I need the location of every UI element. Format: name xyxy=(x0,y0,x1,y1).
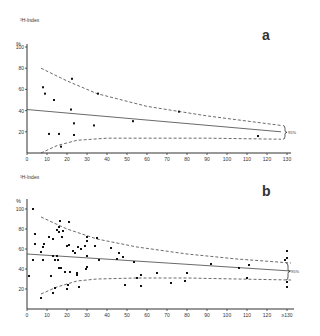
data-point xyxy=(98,259,100,261)
data-point xyxy=(136,277,138,279)
ci-label: 95% xyxy=(288,130,296,135)
x-tick-label: 10 xyxy=(44,312,50,318)
data-point xyxy=(76,272,78,274)
x-tick-label: ≥130 xyxy=(281,312,292,318)
data-point xyxy=(286,286,288,288)
x-tick-label: 50 xyxy=(124,156,130,162)
data-point xyxy=(118,252,120,254)
data-point xyxy=(85,268,87,270)
data-point xyxy=(61,236,63,238)
data-point xyxy=(52,238,54,240)
data-point xyxy=(66,288,68,290)
data-point xyxy=(32,208,34,210)
data-point xyxy=(60,146,62,148)
data-point xyxy=(71,78,73,80)
data-point xyxy=(68,221,70,223)
data-point xyxy=(78,286,80,288)
data-point xyxy=(132,120,134,122)
upper-confidence-band xyxy=(41,68,281,125)
data-point xyxy=(116,258,118,260)
data-point xyxy=(133,261,135,263)
data-point xyxy=(50,275,52,277)
y-tick-label: 100 xyxy=(16,206,25,212)
data-point xyxy=(32,259,34,261)
data-point xyxy=(96,237,98,239)
x-tick-label: 70 xyxy=(164,156,170,162)
data-point xyxy=(86,236,88,238)
data-point xyxy=(140,285,142,287)
data-point xyxy=(60,267,62,269)
data-point xyxy=(70,109,72,111)
y-tick-label: 40 xyxy=(18,266,24,272)
x-tick-label: 100 xyxy=(223,156,232,162)
data-point xyxy=(42,86,44,88)
data-point xyxy=(69,271,71,273)
x-tick-label: 40 xyxy=(104,156,110,162)
data-point xyxy=(73,122,75,124)
x-tick-label: 10 xyxy=(44,156,50,162)
lower-confidence-band xyxy=(41,138,281,153)
data-point xyxy=(77,246,79,248)
x-tick-label: 110 xyxy=(243,156,251,162)
data-point xyxy=(238,267,240,269)
y-tick-label: 40 xyxy=(18,108,24,114)
data-point xyxy=(124,284,126,286)
x-tick-label: 70 xyxy=(164,312,170,318)
data-point xyxy=(48,133,50,135)
data-point xyxy=(93,124,95,126)
upper-confidence-band xyxy=(41,217,291,263)
x-tick-label: 110 xyxy=(243,312,251,318)
data-point xyxy=(67,284,69,286)
data-point xyxy=(140,274,142,276)
data-point xyxy=(57,259,59,261)
x-tick-label: 50 xyxy=(124,312,130,318)
data-point xyxy=(286,281,288,283)
data-point xyxy=(66,245,68,247)
data-point xyxy=(28,275,30,277)
data-point xyxy=(42,259,44,261)
x-tick-label: 120 xyxy=(263,312,272,318)
data-point xyxy=(34,233,36,235)
x-tick-label: 30 xyxy=(84,156,90,162)
data-point xyxy=(54,259,56,261)
panel-label: b xyxy=(262,183,271,199)
data-point xyxy=(246,277,248,279)
data-point xyxy=(53,99,55,101)
y-tick-label: 100 xyxy=(16,44,25,50)
data-point xyxy=(86,255,88,257)
ci-brace xyxy=(283,125,287,139)
data-point xyxy=(68,244,70,246)
data-point xyxy=(170,282,172,284)
data-point xyxy=(52,292,54,294)
data-point xyxy=(62,230,64,232)
x-tick-label: 80 xyxy=(184,156,190,162)
y-tick-label: 20 xyxy=(18,129,24,135)
ci-label: 95% xyxy=(291,269,299,274)
x-tick-label: 20 xyxy=(64,312,70,318)
data-point xyxy=(74,252,76,254)
regression-line xyxy=(27,254,291,271)
data-point xyxy=(184,280,186,282)
y-axis-title: ³H-Index xyxy=(20,174,40,180)
x-tick-label: 80 xyxy=(184,312,190,318)
data-point xyxy=(64,271,66,273)
data-point xyxy=(94,245,96,247)
x-tick-label: 30 xyxy=(84,312,90,318)
x-tick-label: 90 xyxy=(204,156,210,162)
data-point xyxy=(34,243,36,245)
y-axis-title: ³H-Index xyxy=(20,17,40,23)
data-point xyxy=(48,236,50,238)
y-tick-label: 60 xyxy=(18,246,24,252)
data-point xyxy=(84,245,86,247)
data-point xyxy=(186,272,188,274)
panel-label: a xyxy=(262,27,270,43)
data-point xyxy=(56,255,58,257)
data-point xyxy=(40,251,42,253)
ci-brace xyxy=(286,263,290,280)
x-tick-label: 120 xyxy=(263,156,272,162)
data-point xyxy=(286,250,288,252)
y-tick-label: 80 xyxy=(18,226,24,232)
x-tick-label: 60 xyxy=(144,312,150,318)
data-point xyxy=(156,272,158,274)
data-point xyxy=(72,250,74,252)
